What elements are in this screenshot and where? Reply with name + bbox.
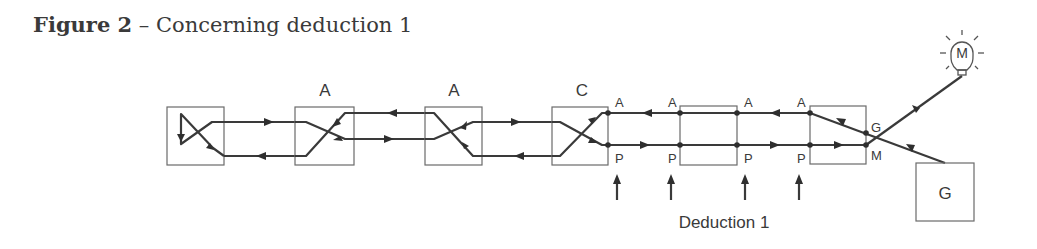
bulb-label: M xyxy=(956,45,968,61)
box-a-1-label: A xyxy=(319,81,331,100)
arrow-right-icon xyxy=(834,141,844,149)
box-c: C xyxy=(552,81,608,165)
arrow-icon xyxy=(462,142,469,149)
arrow-up-icon xyxy=(795,174,803,184)
g-box-label: G xyxy=(938,184,951,203)
deduction-label: Deduction 1 xyxy=(679,213,770,232)
right-box xyxy=(810,106,866,164)
arrow-right-icon xyxy=(640,141,650,149)
port-p-4: P xyxy=(797,151,806,166)
port-a-1: A xyxy=(615,95,624,110)
port-g: G xyxy=(871,120,881,135)
loop-box xyxy=(167,107,224,165)
arrow-left-icon xyxy=(387,109,397,117)
arrow-left-icon xyxy=(642,109,652,117)
arrow-left-icon xyxy=(514,152,524,160)
arrow-left-icon xyxy=(770,109,780,117)
deduction-arrows xyxy=(613,174,803,200)
box-a-1: A xyxy=(295,81,354,165)
deduction-diagram: A A C xyxy=(0,0,1037,249)
middle-box xyxy=(680,106,737,165)
arrow-right-icon xyxy=(384,135,394,143)
arrow-right-icon xyxy=(770,141,780,149)
box-c-label: C xyxy=(576,81,588,100)
arrow-right-icon xyxy=(511,118,521,126)
port-m: M xyxy=(871,148,882,163)
light-bulb-icon: M xyxy=(940,30,984,75)
arrow-icon xyxy=(460,121,467,130)
arrow-up-icon xyxy=(667,174,675,184)
arrow-right-icon xyxy=(264,118,274,126)
port-a-4: A xyxy=(797,95,806,110)
arrow-left-icon xyxy=(256,152,266,160)
box-a-2-label: A xyxy=(448,81,460,100)
port-a-3: A xyxy=(744,95,753,110)
port-p-1: P xyxy=(615,151,624,166)
port-p-3: P xyxy=(744,151,753,166)
port-a-2: A xyxy=(668,95,677,110)
port-p-2: P xyxy=(668,151,677,166)
box-a-2: A xyxy=(425,81,482,165)
arrow-up-icon xyxy=(741,174,749,184)
arrow-up-icon xyxy=(613,174,621,184)
g-box: G xyxy=(916,163,974,221)
